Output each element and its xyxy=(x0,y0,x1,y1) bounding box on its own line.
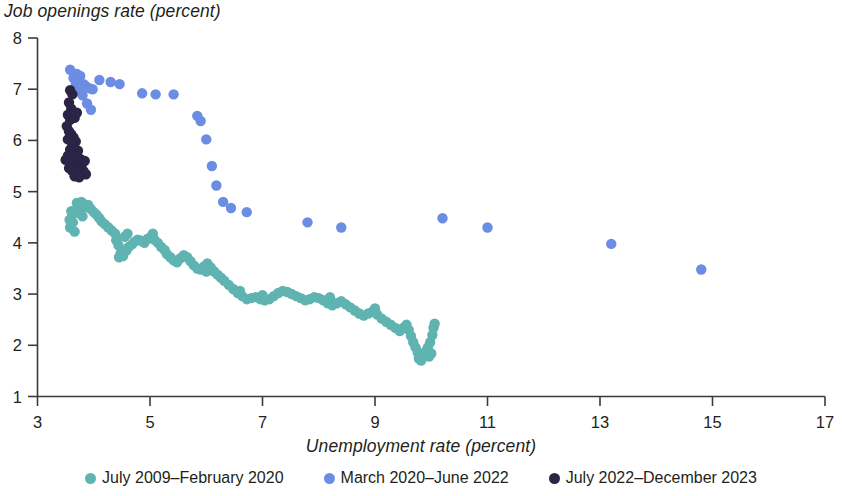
x-tick-label: 5 xyxy=(145,413,154,431)
data-point xyxy=(72,108,82,118)
legend-item-label: July 2009–February 2020 xyxy=(102,470,283,486)
data-point xyxy=(77,211,87,221)
legend-item-2[interactable]: March 2020–June 2022 xyxy=(324,470,509,486)
data-point xyxy=(424,351,434,361)
x-tick-label: 15 xyxy=(703,413,721,431)
data-point xyxy=(168,89,178,99)
data-point xyxy=(201,134,211,144)
data-point xyxy=(86,105,96,115)
data-point xyxy=(429,319,439,329)
y-tick-label: 5 xyxy=(13,183,22,201)
data-point xyxy=(137,88,147,98)
beveridge-curve-figure: Job openings rate (percent) 12345678 357… xyxy=(0,0,842,496)
data-point xyxy=(94,75,104,85)
y-tick-label: 2 xyxy=(13,336,22,354)
data-point xyxy=(122,228,132,238)
legend-marker-icon xyxy=(85,473,96,484)
legend-marker-icon xyxy=(549,473,560,484)
data-point xyxy=(195,116,205,126)
legend-item-1[interactable]: July 2009–February 2020 xyxy=(85,470,283,486)
data-point xyxy=(606,239,616,249)
data-point xyxy=(242,207,252,217)
data-point xyxy=(370,303,380,313)
data-point xyxy=(696,264,706,274)
data-point xyxy=(105,77,115,87)
legend-marker-icon xyxy=(324,473,335,484)
x-axis-title: Unemployment rate (percent) xyxy=(0,436,842,457)
data-point xyxy=(69,226,79,236)
x-tick-label: 17 xyxy=(816,413,834,431)
y-tick-label: 4 xyxy=(13,234,22,252)
x-tick-label: 11 xyxy=(479,413,496,431)
data-point xyxy=(201,266,211,276)
data-point xyxy=(80,156,90,166)
y-axis-ticks: 12345678 xyxy=(13,29,38,406)
x-axis-ticks: 357911131517 xyxy=(33,397,834,432)
data-point xyxy=(482,222,492,232)
x-tick-label: 7 xyxy=(258,413,267,431)
legend-item-label: July 2022–December 2023 xyxy=(566,470,757,486)
data-point xyxy=(437,213,447,223)
legend-item-label: March 2020–June 2022 xyxy=(341,470,509,486)
x-tick-label: 13 xyxy=(591,413,609,431)
data-point xyxy=(74,172,84,182)
data-point xyxy=(235,286,245,296)
y-tick-label: 8 xyxy=(13,29,22,47)
data-series-layer xyxy=(60,65,706,366)
data-point xyxy=(226,203,236,213)
data-point xyxy=(257,290,267,300)
legend-item-3[interactable]: July 2022–December 2023 xyxy=(549,470,757,486)
data-point xyxy=(207,161,217,171)
data-point xyxy=(114,79,124,89)
x-tick-label: 9 xyxy=(370,413,379,431)
data-point xyxy=(63,151,73,161)
data-point xyxy=(87,84,97,94)
data-point xyxy=(325,292,335,302)
data-point xyxy=(148,228,158,238)
series-1-points xyxy=(64,197,439,366)
y-tick-label: 6 xyxy=(13,131,22,149)
y-tick-label: 1 xyxy=(13,388,22,406)
y-tick-label: 7 xyxy=(13,80,22,98)
x-tick-label: 3 xyxy=(33,413,42,431)
data-point xyxy=(150,89,160,99)
scatter-plot-canvas: 12345678 357911131517 xyxy=(0,0,842,460)
data-point xyxy=(302,217,312,227)
chart-legend: July 2009–February 2020March 2020–June 2… xyxy=(0,470,842,486)
y-tick-label: 3 xyxy=(13,285,22,303)
data-point xyxy=(211,180,221,190)
data-point xyxy=(336,222,346,232)
